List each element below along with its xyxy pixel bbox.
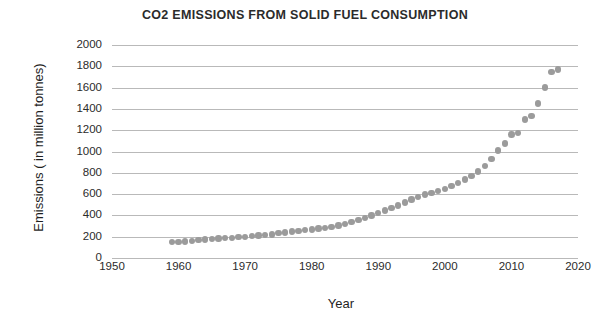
data-point (235, 234, 241, 240)
data-point (289, 228, 295, 234)
data-point (229, 235, 235, 241)
y-tick-label: 400 (42, 208, 102, 220)
y-tick-label: 1200 (42, 123, 102, 135)
gridline (112, 194, 578, 195)
data-point (415, 194, 421, 200)
gridline (112, 109, 578, 110)
x-tick-label: 1980 (282, 260, 342, 272)
data-point (189, 238, 195, 244)
data-point (408, 196, 414, 202)
gridline (112, 88, 578, 89)
data-point (468, 173, 474, 179)
data-point (169, 239, 175, 245)
gridline (112, 258, 578, 259)
x-axis-label: Year (112, 296, 570, 311)
data-point (355, 217, 361, 223)
y-tick-label: 1400 (42, 102, 102, 114)
data-point (455, 180, 461, 186)
y-tick-label: 600 (42, 187, 102, 199)
x-tick-label: 2010 (481, 260, 541, 272)
data-point (295, 228, 301, 234)
y-tick-label: 1000 (42, 145, 102, 157)
data-point (328, 224, 334, 230)
data-point (535, 100, 541, 106)
data-point (555, 66, 561, 72)
data-point (202, 236, 208, 242)
data-point (302, 227, 308, 233)
data-point (508, 131, 514, 137)
data-point (282, 229, 288, 235)
x-tick-label: 2020 (548, 260, 608, 272)
y-tick-label: 800 (42, 166, 102, 178)
y-tick-label: 1800 (42, 59, 102, 71)
data-point (342, 221, 348, 227)
data-point (548, 69, 554, 75)
data-point (382, 207, 388, 213)
y-tick-label: 200 (42, 230, 102, 242)
data-point (255, 232, 261, 238)
chart-title: CO2 EMISSIONS FROM SOLID FUEL CONSUMPTIO… (0, 8, 610, 22)
data-point (522, 116, 528, 122)
plot-area: 0200400600800100012001400160018002000 19… (112, 45, 578, 258)
y-tick-label: 2000 (42, 38, 102, 50)
data-point (388, 205, 394, 211)
data-point (362, 215, 368, 221)
data-point (249, 233, 255, 239)
data-point (395, 202, 401, 208)
data-point (368, 212, 374, 218)
data-point (242, 234, 248, 240)
data-point (209, 236, 215, 242)
data-point (182, 238, 188, 244)
data-point (222, 235, 228, 241)
data-point (488, 156, 494, 162)
data-point (462, 176, 468, 182)
data-point (175, 239, 181, 245)
x-tick-label: 1990 (348, 260, 408, 272)
data-point (495, 147, 501, 153)
data-point (309, 226, 315, 232)
data-point (275, 230, 281, 236)
data-point (195, 237, 201, 243)
data-point (442, 186, 448, 192)
data-point (482, 163, 488, 169)
gridline (112, 152, 578, 153)
gridline (112, 215, 578, 216)
x-tick-label: 1950 (82, 260, 142, 272)
x-tick-label: 1970 (215, 260, 275, 272)
chart-figure: CO2 EMISSIONS FROM SOLID FUEL CONSUMPTIO… (0, 0, 610, 325)
data-point (422, 191, 428, 197)
data-point (428, 190, 434, 196)
data-point (515, 130, 521, 136)
gridline (112, 237, 578, 238)
x-tick-label: 2000 (415, 260, 475, 272)
data-point (348, 219, 354, 225)
gridline (112, 66, 578, 67)
gridline (112, 45, 578, 46)
data-point (315, 225, 321, 231)
data-point (215, 235, 221, 241)
data-point (322, 225, 328, 231)
x-tick-label: 1960 (149, 260, 209, 272)
data-point (528, 113, 534, 119)
data-point (475, 168, 481, 174)
data-point (335, 222, 341, 228)
data-point (502, 140, 508, 146)
y-tick-label: 1600 (42, 81, 102, 93)
data-point (542, 84, 548, 90)
data-point (402, 199, 408, 205)
data-point (269, 231, 275, 237)
data-point (448, 183, 454, 189)
gridline (112, 173, 578, 174)
